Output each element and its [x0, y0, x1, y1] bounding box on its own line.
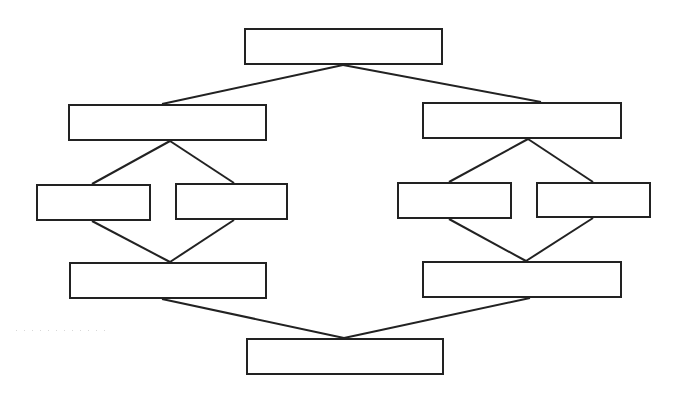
edge-right-branch-to-right-branch-b	[528, 139, 593, 182]
node-final	[246, 338, 444, 375]
edge-right-branch-b-to-right-merge	[526, 218, 593, 261]
edge-right-branch-a-to-right-merge	[449, 219, 526, 261]
node-left-branch-a	[36, 184, 151, 221]
node-left-merge	[69, 262, 267, 299]
node-right-branch-a	[397, 182, 512, 219]
edge-left-branch-b-to-left-merge	[170, 220, 234, 262]
edge-left-branch-to-left-branch-b	[170, 141, 234, 183]
flowchart-canvas	[0, 0, 688, 401]
scan-noise	[16, 330, 106, 331]
node-right-branch	[422, 102, 622, 139]
edge-right-merge-to-final	[344, 298, 530, 338]
edge-left-merge-to-final	[162, 299, 344, 338]
node-right-branch-b	[536, 182, 651, 218]
node-root	[244, 28, 443, 65]
edge-left-branch-to-left-branch-a	[92, 141, 170, 184]
edge-right-branch-to-right-branch-a	[449, 139, 528, 182]
node-left-branch-b	[175, 183, 288, 220]
edge-root-to-left-branch	[162, 65, 343, 104]
edge-left-branch-a-to-left-merge	[92, 221, 170, 262]
node-right-merge	[422, 261, 622, 298]
node-left-branch	[68, 104, 267, 141]
edge-root-to-right-branch	[343, 65, 541, 102]
